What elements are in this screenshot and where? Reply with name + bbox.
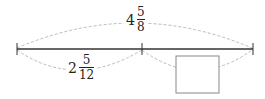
known-whole: 2 — [68, 60, 77, 76]
known-part-label: 2 5 12 — [66, 54, 96, 81]
total-numerator: 5 — [137, 6, 145, 18]
total-denominator: 8 — [137, 21, 145, 33]
total-label: 4 5 8 — [124, 6, 147, 33]
known-numerator: 5 — [83, 54, 91, 66]
answer-box[interactable] — [176, 56, 219, 93]
total-whole: 4 — [126, 12, 135, 28]
known-denominator: 12 — [79, 69, 94, 81]
